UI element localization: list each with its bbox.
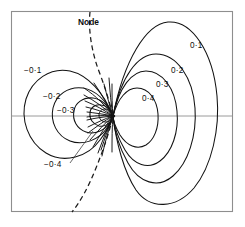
label-0-3: 0·3 [156, 80, 169, 89]
label-neg-0-1: −0·1 [24, 66, 42, 75]
label-node: Node [78, 17, 99, 27]
contour-plot-figure: Node 0·1 0·2 0·3 0·4 −0·1 −0·2 −0·3 −0·4 [0, 0, 245, 227]
label-neg-0-2: −0·2 [43, 92, 61, 101]
label-0-1: 0·1 [190, 41, 203, 50]
contour-plot-svg: Node 0·1 0·2 0·3 0·4 −0·1 −0·2 −0·3 −0·4 [0, 0, 245, 227]
label-neg-0-3: −0·3 [57, 106, 75, 115]
label-neg-0-4: −0·4 [44, 160, 62, 169]
label-0-2: 0·2 [171, 66, 184, 75]
label-0-4: 0·4 [142, 94, 155, 103]
